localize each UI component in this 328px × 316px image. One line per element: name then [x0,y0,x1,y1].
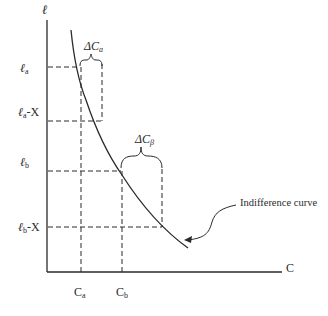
indifference-curve-label: Indifference curve [240,197,317,208]
indifference-curve [71,30,188,248]
brace-delta-ca [80,54,102,66]
arrow-head-icon [184,236,192,243]
guide-lines [48,64,162,272]
brace-delta-cb [121,147,162,168]
indifference-curve-diagram: ℓ C ℓa ℓa-X ℓb ℓb-X Ca Cb ΔCa ΔCβ Indiff… [0,0,328,316]
x-tick-cb: Cb [116,285,128,300]
x-axis-label: C [286,261,294,275]
y-tick-lb: ℓb [20,155,29,170]
y-tick-la-x: ℓa-X [18,105,40,120]
y-axis-label: ℓ [42,2,48,17]
y-tick-la: ℓa [20,61,29,76]
x-tick-ca: Ca [74,285,86,300]
annotation-arrow [188,205,236,240]
y-tick-lb-x: ℓb-X [18,220,40,235]
brace-label-delta-ca: ΔCa [83,39,103,54]
brace-label-delta-cb: ΔCβ [134,132,154,147]
